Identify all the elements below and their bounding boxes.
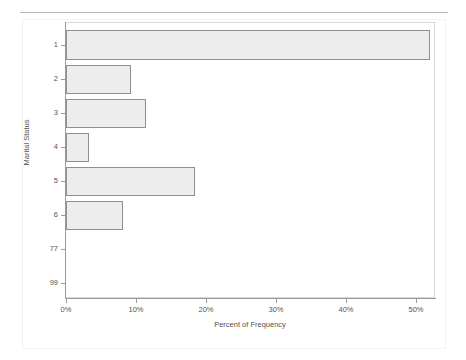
x-axis-label-0: 0% xyxy=(46,305,86,314)
y-axis-line xyxy=(65,22,66,299)
x-axis-tick-40 xyxy=(346,299,347,303)
bar-category-2 xyxy=(66,65,131,94)
y-axis-tick-4 xyxy=(61,147,65,148)
top-divider-rule xyxy=(20,12,448,13)
chart-page: 1 2 3 4 5 6 77 99 Marital Status 0% 10% … xyxy=(0,0,466,360)
x-axis-label-40: 40% xyxy=(326,305,366,314)
y-axis-label-3: 3 xyxy=(12,109,58,117)
x-axis-label-30: 30% xyxy=(256,305,296,314)
x-axis-tick-10 xyxy=(136,299,137,303)
y-axis-title: Marital Status xyxy=(22,93,31,193)
y-axis-tick-77 xyxy=(61,249,65,250)
bar-category-6 xyxy=(66,201,123,230)
y-axis-label-4: 4 xyxy=(12,143,58,151)
y-axis-label-6: 6 xyxy=(12,211,58,219)
y-axis-label-2: 2 xyxy=(12,75,58,83)
x-axis-tick-0 xyxy=(66,299,67,303)
x-axis-tick-50 xyxy=(416,299,417,303)
bar-category-1 xyxy=(66,30,430,60)
y-axis-tick-99 xyxy=(61,283,65,284)
bar-category-5 xyxy=(66,167,195,196)
x-axis-title: Percent of Frequency xyxy=(65,320,435,329)
x-axis-tick-20 xyxy=(206,299,207,303)
y-axis-tick-5 xyxy=(61,181,65,182)
x-axis-label-50: 50% xyxy=(396,305,436,314)
y-axis-tick-1 xyxy=(61,45,65,46)
x-axis-label-20: 20% xyxy=(186,305,226,314)
y-axis-label-1: 1 xyxy=(12,41,58,49)
bar-category-3 xyxy=(66,99,146,128)
y-axis-label-77: 77 xyxy=(12,245,58,253)
y-axis-label-99: 99 xyxy=(12,279,58,287)
y-axis-tick-3 xyxy=(61,113,65,114)
y-axis-tick-6 xyxy=(61,215,65,216)
x-axis-tick-30 xyxy=(276,299,277,303)
bars-container xyxy=(66,23,434,297)
x-axis-line xyxy=(65,298,436,299)
y-axis-tick-2 xyxy=(61,79,65,80)
y-axis-label-5: 5 xyxy=(12,177,58,185)
x-axis-label-10: 10% xyxy=(116,305,156,314)
bar-category-4 xyxy=(66,133,89,162)
